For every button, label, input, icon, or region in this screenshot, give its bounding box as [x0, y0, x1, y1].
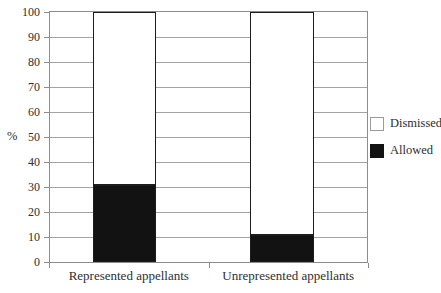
y-axis-tick-mark [44, 162, 49, 163]
x-axis-tick-mark [368, 263, 369, 268]
y-axis-tick-label: 60 [0, 105, 40, 119]
y-axis-tick-label: 50 [0, 130, 40, 144]
legend-label: Dismissed [390, 116, 441, 131]
y-axis-tick-label: 70 [0, 80, 40, 94]
y-axis-tick-mark [44, 62, 49, 63]
plot-area [49, 11, 368, 263]
y-axis-tick-label: 80 [0, 55, 40, 69]
x-axis-tick-mark [209, 263, 210, 268]
bar-unrepresented [250, 12, 314, 262]
y-axis-tick-label: 0 [0, 255, 40, 269]
y-axis-tick-mark [44, 87, 49, 88]
y-axis-tick-mark [44, 112, 49, 113]
x-axis-category-label: Unrepresented appellants [222, 268, 354, 284]
y-axis-tick-mark [44, 212, 49, 213]
legend-label: Allowed [390, 143, 433, 158]
x-axis-tick-mark [49, 263, 50, 268]
bar-segment-dismissed [93, 12, 156, 185]
y-axis-tick-label: 30 [0, 180, 40, 194]
y-axis-tick-mark [44, 187, 49, 188]
bar-segment-dismissed [250, 12, 314, 235]
y-axis-tick-mark [44, 237, 49, 238]
y-axis-tick-mark [44, 12, 49, 13]
x-axis-category-label: Represented appellants [69, 268, 189, 284]
y-axis-tick-mark [44, 37, 49, 38]
y-axis-tick-label: 40 [0, 155, 40, 169]
y-axis-tick-label: 10 [0, 230, 40, 244]
bar-represented [93, 12, 156, 262]
legend-swatch-dismissed [370, 117, 384, 131]
legend-item-dismissed: Dismissed [370, 116, 441, 131]
legend-swatch-allowed [370, 144, 384, 158]
y-axis-tick-label: 100 [0, 5, 40, 19]
chart-figure: % DismissedAllowed 010203040506070809010… [0, 0, 441, 293]
legend: DismissedAllowed [370, 116, 441, 170]
y-axis-tick-label: 90 [0, 30, 40, 44]
bar-segment-allowed [250, 235, 314, 263]
bar-segment-allowed [93, 185, 156, 263]
y-axis-tick-mark [44, 137, 49, 138]
legend-item-allowed: Allowed [370, 143, 441, 158]
y-axis-tick-label: 20 [0, 205, 40, 219]
